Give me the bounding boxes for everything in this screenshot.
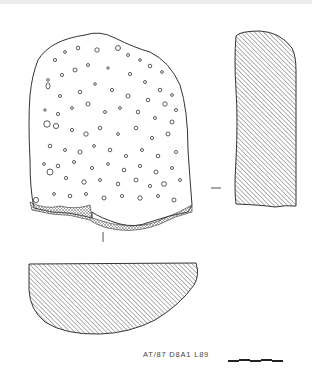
- scale-bar: [228, 359, 283, 362]
- cross-section: [29, 263, 198, 334]
- artefact-catalogue-label: AT/87 D8A1 L89: [143, 350, 209, 359]
- face-view: [29, 33, 192, 230]
- artefact-drawing: [0, 0, 312, 383]
- side-profile-section: [235, 31, 296, 207]
